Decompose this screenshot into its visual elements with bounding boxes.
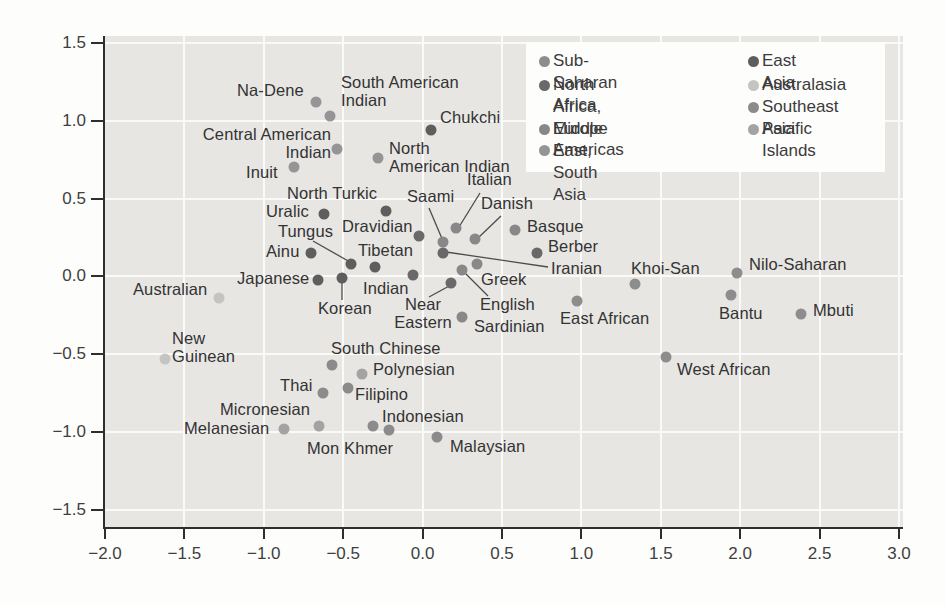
population-label-berber: Berber xyxy=(548,238,598,256)
x-tick xyxy=(501,529,503,539)
population-label-bantu: Bantu xyxy=(719,305,763,323)
population-label-english: English xyxy=(480,296,535,314)
population-label-mon-khmer: Mon Khmer xyxy=(307,440,393,458)
legend-dot-europe xyxy=(539,124,550,135)
population-label-sardinian: Sardinian xyxy=(474,318,545,336)
y-tick xyxy=(91,198,103,200)
population-dot-south-chinese xyxy=(327,360,338,371)
y-tick-label: −0.5 xyxy=(52,344,86,364)
population-label-danish: Danish xyxy=(481,195,533,213)
population-dot-danish xyxy=(470,234,481,245)
x-tick-label: 1.5 xyxy=(649,544,673,564)
x-tick-label: −2.0 xyxy=(88,544,122,564)
x-tick-label: 3.0 xyxy=(887,544,911,564)
population-dot-indonesian xyxy=(384,425,395,436)
population-dot-berber xyxy=(531,248,542,259)
population-dot-khoi-san xyxy=(630,279,641,290)
y-tick-label: 0.0 xyxy=(62,266,86,286)
population-dot-micronesian xyxy=(314,420,325,431)
x-tick-label: −0.5 xyxy=(326,544,360,564)
population-label-na-dene: Na-Dene xyxy=(237,82,304,100)
population-label-polynesian: Polynesian xyxy=(373,361,455,379)
x-tick-label: 1.0 xyxy=(570,544,594,564)
population-label-tibetan: Tibetan xyxy=(358,242,413,260)
legend-dot-australasia xyxy=(748,80,759,91)
population-dot-greek xyxy=(471,258,482,269)
population-label-ainu: Ainu xyxy=(266,243,299,261)
legend-dot-north_africa_middle_east_south_asia xyxy=(539,80,550,91)
x-tick xyxy=(739,529,741,539)
population-label-inuit: Inuit xyxy=(246,164,278,182)
y-tick-label: −1.5 xyxy=(52,500,86,520)
population-label-thai: Thai xyxy=(280,377,313,395)
population-dot-east-african xyxy=(571,296,582,307)
gridline-vertical xyxy=(422,36,424,527)
population-dot-japanese xyxy=(312,274,323,285)
population-dot-na-dene xyxy=(311,97,322,108)
population-label-new-guinean: New Guinean xyxy=(172,330,235,365)
population-dot-italian xyxy=(450,223,461,234)
legend-label-australasia: Australasia xyxy=(762,74,846,96)
population-dot-mon-khmer xyxy=(368,420,379,431)
population-label-uralic: Uralic xyxy=(266,203,309,221)
y-tick-label: 0.5 xyxy=(62,189,86,209)
population-label-korean: Korean xyxy=(318,300,372,318)
x-tick xyxy=(898,529,900,539)
population-label-near-eastern: Near Eastern xyxy=(394,296,452,331)
legend-label-pacific_islands: Pacific Islands xyxy=(762,118,816,162)
y-tick xyxy=(91,42,103,44)
population-label-iranian: Iranian xyxy=(551,260,602,278)
population-dot-bantu xyxy=(725,290,736,301)
population-dot-ainu xyxy=(306,248,317,259)
population-label-mbuti: Mbuti xyxy=(813,302,854,320)
gridline-horizontal xyxy=(105,509,903,511)
population-dot-indian xyxy=(408,269,419,280)
y-tick xyxy=(91,431,103,433)
y-tick xyxy=(91,353,103,355)
population-dot-basque xyxy=(509,224,520,235)
population-dot-iranian xyxy=(438,248,449,259)
x-tick-label: 0.5 xyxy=(490,544,514,564)
x-tick-label: 2.0 xyxy=(728,544,752,564)
population-dot-polynesian xyxy=(357,369,368,380)
population-label-dravidian: Dravidian xyxy=(342,218,413,236)
population-label-nilo-saharan: Nilo-Saharan xyxy=(749,256,847,274)
y-tick xyxy=(91,275,103,277)
legend-dot-southeast_asia xyxy=(748,102,759,113)
x-tick xyxy=(104,529,106,539)
population-label-indian: Indian xyxy=(363,280,409,298)
population-label-central-american-indian: Central American Indian xyxy=(203,126,331,161)
population-label-south-chinese: South Chinese xyxy=(331,340,441,358)
legend-dot-sub_saharan_africa xyxy=(539,56,550,67)
population-label-tungus: Tungus xyxy=(278,223,333,241)
population-dot-inuit xyxy=(288,162,299,173)
population-label-melanesian: Melanesian xyxy=(184,420,269,438)
population-dot-nilo-saharan xyxy=(732,268,743,279)
x-tick xyxy=(183,529,185,539)
population-dot-uralic xyxy=(319,209,330,220)
x-tick xyxy=(263,529,265,539)
population-dot-malaysian xyxy=(431,431,442,442)
population-dot-korean xyxy=(336,272,347,283)
population-dot-english xyxy=(457,265,468,276)
legend-dot-americas xyxy=(539,145,550,156)
population-label-micronesian: Micronesian xyxy=(220,401,310,419)
population-dot-tungus xyxy=(346,258,357,269)
population-label-khoi-san: Khoi-San xyxy=(631,260,700,278)
population-dot-dravidian xyxy=(414,230,425,241)
population-label-basque: Basque xyxy=(527,218,584,236)
x-tick xyxy=(819,529,821,539)
population-label-east-african: East African xyxy=(560,310,649,328)
population-label-chukchi: Chukchi xyxy=(440,109,500,127)
population-label-malaysian: Malaysian xyxy=(450,438,525,456)
population-label-italian: Italian xyxy=(467,171,512,189)
population-label-indonesian: Indonesian xyxy=(382,408,464,426)
legend-label-americas: Americas xyxy=(553,139,624,161)
y-tick-label: 1.0 xyxy=(62,111,86,131)
population-dot-melanesian xyxy=(279,423,290,434)
x-tick-label: 2.5 xyxy=(808,544,832,564)
x-tick-label: −1.5 xyxy=(168,544,202,564)
population-label-australian: Australian xyxy=(133,281,207,299)
population-dot-saami xyxy=(438,237,449,248)
population-dot-near-eastern xyxy=(446,277,457,288)
